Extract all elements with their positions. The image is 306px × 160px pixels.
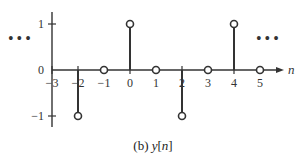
continuation-left: •••: [8, 30, 34, 47]
stem-marker: [179, 113, 186, 120]
y-tick-label: −1: [31, 109, 44, 123]
y-tick-label: 0: [38, 63, 44, 77]
x-axis-label: n: [288, 62, 295, 77]
figure-caption: (b) y[n]: [0, 138, 306, 154]
x-axis-arrow-icon: [276, 67, 284, 73]
x-tick-label: 1: [153, 76, 159, 90]
stem-marker: [101, 67, 108, 74]
y-tick-label: 1: [38, 17, 44, 31]
stem-plot: n −101−3−2−1012345••••••: [0, 0, 306, 140]
bracket-close: ]: [168, 138, 172, 153]
x-tick-label: 3: [205, 76, 211, 90]
x-tick-label: 4: [231, 76, 237, 90]
x-tick-label: −1: [98, 76, 111, 90]
stem-marker: [231, 21, 238, 28]
continuation-right: •••: [256, 30, 282, 47]
stem-marker: [75, 113, 82, 120]
stem-marker: [127, 21, 134, 28]
stem-marker: [257, 67, 264, 74]
x-tick-label: 2: [179, 76, 185, 90]
caption-prefix: (b): [133, 138, 148, 153]
x-tick-label: 5: [257, 76, 263, 90]
stem-marker: [205, 67, 212, 74]
x-tick-label: −2: [72, 76, 85, 90]
x-tick-label: 0: [127, 76, 133, 90]
x-tick-label: −3: [46, 76, 59, 90]
stem-marker: [153, 67, 160, 74]
